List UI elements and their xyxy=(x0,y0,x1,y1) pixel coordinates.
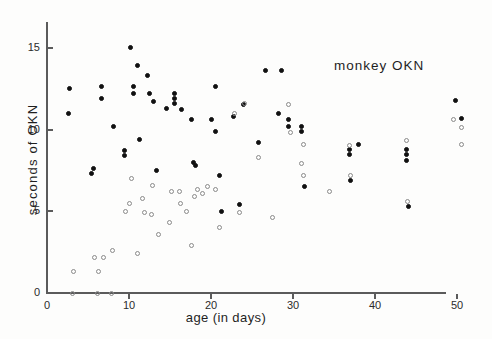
data-point-open xyxy=(205,184,210,189)
data-point-open xyxy=(217,225,222,230)
data-point-open xyxy=(96,269,101,274)
data-point-open xyxy=(256,155,261,160)
x-tick-label: 10 xyxy=(116,299,142,311)
data-point-filled xyxy=(404,147,409,152)
data-point-filled xyxy=(67,86,72,91)
data-point-open xyxy=(70,291,75,296)
data-point-open xyxy=(71,269,76,274)
data-point-open xyxy=(142,210,147,215)
y-tick-mark xyxy=(48,47,53,49)
data-point-open xyxy=(184,209,189,214)
data-point-filled xyxy=(131,91,136,96)
data-point-open xyxy=(270,215,275,220)
data-point-open xyxy=(129,176,134,181)
y-tick-mark xyxy=(48,210,53,212)
scatter-plot-figure: 05101501020304050 seconds of OKN age (in… xyxy=(0,0,492,339)
data-point-open xyxy=(150,183,155,188)
data-point-filled xyxy=(406,204,411,209)
data-point-filled xyxy=(404,158,409,163)
data-point-open xyxy=(156,232,161,237)
y-tick-mark xyxy=(48,292,53,294)
data-point-filled xyxy=(217,173,222,178)
data-point-open xyxy=(92,255,97,260)
data-point-open xyxy=(405,199,410,204)
data-point-open xyxy=(348,173,353,178)
data-point-filled xyxy=(404,152,409,157)
x-axis-title: age (in days) xyxy=(166,310,286,325)
data-point-open xyxy=(451,117,456,122)
data-point-filled xyxy=(66,111,71,116)
data-point-open xyxy=(169,189,174,194)
data-point-filled xyxy=(91,166,96,171)
data-point-open xyxy=(404,138,409,143)
data-point-filled xyxy=(89,171,94,176)
data-point-filled xyxy=(151,99,156,104)
data-point-open xyxy=(178,201,183,206)
data-point-filled xyxy=(122,153,127,158)
data-point-filled xyxy=(99,84,104,89)
data-point-open xyxy=(95,291,100,296)
y-tick-label: 0 xyxy=(14,286,40,298)
x-tick-label: 50 xyxy=(444,299,470,311)
data-point-open xyxy=(127,201,132,206)
data-point-filled xyxy=(154,168,159,173)
data-point-filled xyxy=(164,106,169,111)
data-point-open xyxy=(192,194,197,199)
data-point-open xyxy=(286,102,291,107)
data-point-open xyxy=(110,248,115,253)
data-point-open xyxy=(213,187,218,192)
data-point-open xyxy=(109,291,114,296)
data-point-filled xyxy=(99,96,104,101)
data-point-filled xyxy=(237,202,242,207)
data-point-open xyxy=(299,161,304,166)
data-point-filled xyxy=(276,111,281,116)
data-point-filled xyxy=(191,160,196,165)
data-point-open xyxy=(149,212,154,217)
data-point-filled xyxy=(302,184,307,189)
data-point-filled xyxy=(209,117,214,122)
data-point-filled xyxy=(256,140,261,145)
data-point-open xyxy=(288,130,293,135)
data-point-open xyxy=(459,125,464,130)
data-point-open xyxy=(459,142,464,147)
data-point-filled xyxy=(135,63,140,68)
data-point-filled xyxy=(348,178,353,183)
data-point-open xyxy=(123,209,128,214)
data-point-filled xyxy=(213,129,218,134)
data-point-filled xyxy=(147,91,152,96)
data-point-filled xyxy=(128,45,133,50)
x-axis-line xyxy=(46,292,446,294)
data-point-filled xyxy=(459,116,464,121)
chart-annotation-label: monkey OKN xyxy=(334,58,424,73)
data-point-open xyxy=(140,196,145,201)
data-point-filled xyxy=(111,124,116,129)
data-point-filled xyxy=(299,124,304,129)
data-point-filled xyxy=(263,68,268,73)
y-axis-line xyxy=(46,22,48,294)
data-point-open xyxy=(301,173,306,178)
data-point-open xyxy=(167,220,172,225)
data-point-open xyxy=(242,101,247,106)
data-point-filled xyxy=(299,129,304,134)
data-point-filled xyxy=(172,101,177,106)
data-point-filled xyxy=(347,152,352,157)
data-point-filled xyxy=(179,107,184,112)
data-point-open xyxy=(189,243,194,248)
data-point-open xyxy=(232,111,237,116)
y-tick-label: 15 xyxy=(14,41,40,53)
data-point-open xyxy=(301,142,306,147)
data-point-filled xyxy=(356,142,361,147)
y-tick-mark xyxy=(48,129,53,131)
data-point-open xyxy=(327,189,332,194)
data-point-filled xyxy=(219,209,224,214)
plot-area: 05101501020304050 seconds of OKN age (in… xyxy=(0,0,492,339)
data-point-open xyxy=(200,191,205,196)
data-point-filled xyxy=(189,117,194,122)
x-tick-label: 40 xyxy=(362,299,388,311)
data-point-filled xyxy=(213,84,218,89)
data-point-open xyxy=(177,189,182,194)
data-point-open xyxy=(135,251,140,256)
data-point-filled xyxy=(137,137,142,142)
data-point-filled xyxy=(286,117,291,122)
y-axis-title: seconds of OKN xyxy=(25,80,40,240)
